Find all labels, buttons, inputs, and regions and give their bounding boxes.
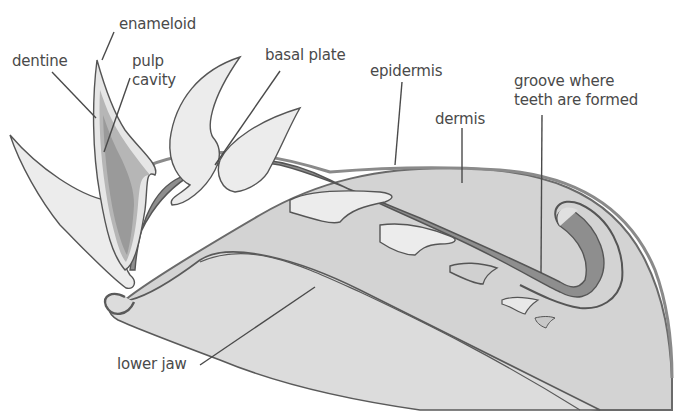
label-dentine: dentine <box>12 52 68 70</box>
label-groove-line1: groove where <box>514 72 614 90</box>
leader-groove <box>541 115 542 273</box>
label-groove-line2: teeth are formed <box>514 91 638 109</box>
label-enameloid: enameloid <box>119 15 196 33</box>
tooth-third <box>218 108 300 192</box>
label-epidermis: epidermis <box>370 62 442 80</box>
leader-epidermis <box>395 82 402 165</box>
label-dermis: dermis <box>435 110 485 128</box>
label-basal-plate: basal plate <box>265 46 345 64</box>
leader-enameloid <box>102 32 114 60</box>
label-pulp-cavity-line2: cavity <box>132 71 176 89</box>
leader-dentine <box>52 72 96 118</box>
label-lower-jaw: lower jaw <box>117 355 187 373</box>
label-pulp-cavity-line1: pulp <box>132 52 164 70</box>
